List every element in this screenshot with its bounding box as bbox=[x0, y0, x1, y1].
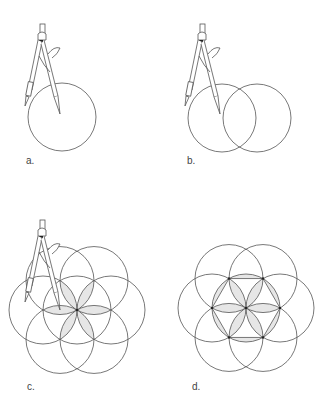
vertex-dot bbox=[228, 336, 230, 338]
vertex-dot bbox=[245, 307, 247, 309]
panel-c bbox=[9, 247, 145, 374]
compass-icon bbox=[25, 24, 60, 114]
circle bbox=[223, 84, 291, 152]
vertex-dot bbox=[211, 307, 213, 309]
panel-a bbox=[25, 24, 96, 151]
vertex-dot bbox=[262, 277, 264, 279]
panel-d bbox=[178, 245, 314, 372]
compass-icon bbox=[185, 24, 220, 114]
panel-label-b: b. bbox=[187, 155, 195, 166]
panel-label-a: a. bbox=[26, 155, 34, 166]
panel-b bbox=[185, 24, 291, 152]
compass-construction-diagram bbox=[0, 0, 316, 407]
panel-label-d: d. bbox=[192, 381, 200, 392]
vertex-dot bbox=[262, 336, 264, 338]
vertex-dot bbox=[228, 277, 230, 279]
panel-label-c: c. bbox=[27, 381, 35, 392]
vertex-dot bbox=[279, 307, 281, 309]
circle bbox=[28, 83, 96, 151]
circle bbox=[188, 84, 256, 152]
